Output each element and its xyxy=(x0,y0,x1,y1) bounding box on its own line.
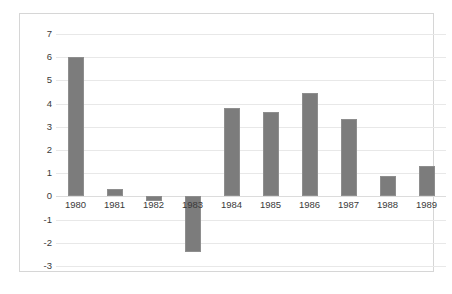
bar xyxy=(380,176,396,197)
bar xyxy=(302,93,318,196)
bar xyxy=(185,196,201,252)
gridline xyxy=(56,80,446,81)
gridline xyxy=(56,243,446,244)
y-axis-tick-label: 5 xyxy=(30,75,52,85)
gridline xyxy=(56,104,446,105)
bar xyxy=(419,166,435,196)
bar xyxy=(107,189,123,196)
gridline xyxy=(56,34,446,35)
bar xyxy=(341,119,357,197)
bar xyxy=(146,196,162,201)
y-axis-tick-label: -3 xyxy=(30,261,52,271)
bar xyxy=(224,108,240,196)
y-axis-tick-label: -1 xyxy=(30,215,52,225)
y-axis-tick-label: 1 xyxy=(30,168,52,178)
gridline xyxy=(56,57,446,58)
gridline xyxy=(56,150,446,151)
y-axis-tick-labels: 76543210-1-2-3 xyxy=(28,34,52,266)
y-axis-tick-label: -2 xyxy=(30,238,52,248)
gridline xyxy=(56,127,446,128)
y-axis-tick-label: 7 xyxy=(30,29,52,39)
gridline xyxy=(56,266,446,267)
gridline xyxy=(56,220,446,221)
bar xyxy=(68,57,84,196)
y-axis-tick-label: 4 xyxy=(30,99,52,109)
gridline xyxy=(56,196,446,197)
gridline xyxy=(56,173,446,174)
chart-frame: 76543210-1-2-3 1980198119821983198419851… xyxy=(19,13,434,272)
bar-chart: 76543210-1-2-3 1980198119821983198419851… xyxy=(0,0,452,294)
y-axis-tick-label: 6 xyxy=(30,52,52,62)
y-axis-tick-label: 2 xyxy=(30,145,52,155)
plot-area xyxy=(56,34,446,266)
y-axis-tick-label: 0 xyxy=(30,191,52,201)
bar xyxy=(263,112,279,197)
y-axis-tick-label: 3 xyxy=(30,122,52,132)
